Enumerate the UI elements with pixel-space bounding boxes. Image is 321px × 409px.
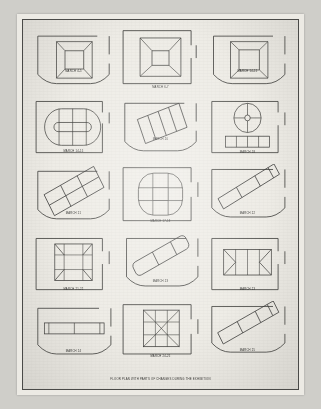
plan-cell[interactable]: MARCH 4-5 xyxy=(31,27,116,95)
plan-drawing-11 xyxy=(118,233,203,301)
plan-label: MARCH 23 xyxy=(205,288,290,291)
plan-cell[interactable]: MARCH 18 xyxy=(205,96,290,164)
plan-label: MARCH 24 xyxy=(31,350,116,353)
plan-cell[interactable]: MARCH 25 xyxy=(205,301,290,369)
plan-cell[interactable]: MARCH 6-7 xyxy=(118,27,203,95)
plan-label: MARCH 21 xyxy=(31,212,116,215)
plan-label: MARCH 21-22 xyxy=(31,288,116,291)
plan-grid: MARCH 4-5 MARCH 6-7 xyxy=(31,27,290,369)
plan-cell[interactable]: MARCH 21 xyxy=(31,164,116,232)
plan-cell[interactable]: MARCH 21-22 xyxy=(31,233,116,301)
plan-label: MARCH 22 xyxy=(205,212,290,215)
plan-cell[interactable]: MARCH 14-15 xyxy=(205,27,290,95)
plan-cell[interactable]: MARCH 23 xyxy=(205,233,290,301)
plan-label: MARCH 14-15 xyxy=(205,70,290,73)
plan-drawing-7 xyxy=(31,164,116,232)
plan-drawing-2 xyxy=(118,27,203,95)
plan-label: MARCH 25 xyxy=(205,349,290,352)
page-border: MARCH 4-5 MARCH 6-7 xyxy=(22,19,299,390)
sheet-caption: FLOOR PLAN WITH PARTS OF CHANGES DURING … xyxy=(23,377,298,381)
screenshot-root: MARCH 4-5 MARCH 6-7 xyxy=(0,0,321,409)
plan-cell[interactable]: MARCH 17-18 xyxy=(118,164,203,232)
plan-label: MARCH 18 xyxy=(205,151,290,154)
plan-label: MARCH 20 xyxy=(118,138,203,141)
plan-drawing-9 xyxy=(205,164,290,232)
plan-cell[interactable]: MARCH 14-15 xyxy=(31,96,116,164)
plan-cell[interactable]: MARCH 24-25 xyxy=(118,301,203,369)
plan-label: MARCH 4-5 xyxy=(31,70,116,73)
plan-cell[interactable]: MARCH 24 xyxy=(31,301,116,369)
plan-drawing-14 xyxy=(118,301,203,369)
plan-label: MARCH 24-25 xyxy=(118,355,203,358)
plan-label: MARCH 17-18 xyxy=(118,220,203,223)
scanned-page: MARCH 4-5 MARCH 6-7 xyxy=(17,14,304,395)
plan-drawing-5 xyxy=(118,96,203,164)
plan-cell[interactable]: MARCH 23 xyxy=(118,233,203,301)
plan-cell[interactable]: MARCH 20 xyxy=(118,96,203,164)
plan-label: MARCH 6-7 xyxy=(118,86,203,89)
plan-drawing-13 xyxy=(31,301,116,369)
plan-label: MARCH 23 xyxy=(118,280,203,283)
plan-label: MARCH 14-15 xyxy=(31,150,116,153)
plan-drawing-15 xyxy=(205,301,290,369)
plan-drawing-3 xyxy=(205,27,290,95)
plan-cell[interactable]: MARCH 22 xyxy=(205,164,290,232)
plan-drawing-1 xyxy=(31,27,116,95)
